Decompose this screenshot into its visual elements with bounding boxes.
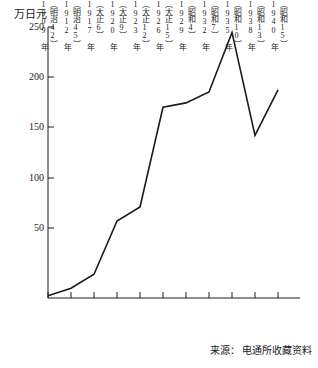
x-tick-label-5: 1926 年（大正15） <box>154 0 172 50</box>
x-tick-label-era-4: （大正12） <box>140 0 149 50</box>
x-tick-label-era-10: （昭和15） <box>278 0 287 50</box>
x-tick-label-year-6: 1929 年 <box>177 0 186 50</box>
x-tick-label-8: 1935 年（昭和10） <box>223 0 241 50</box>
x-tick-label-era-8: （昭和10） <box>232 0 241 50</box>
y-tick-label-100: 100 <box>29 172 44 183</box>
x-tick-label-era-0: （明治42） <box>48 0 57 50</box>
x-tick-label-0: 1909 年（明治42） <box>39 0 57 50</box>
x-tick-label-6: 1929 年（昭和4） <box>177 0 195 50</box>
x-tick-label-year-4: 1923 年 <box>131 0 140 50</box>
x-tick-label-era-3: （大正9） <box>117 0 126 50</box>
x-tick-label-year-2: 1917 年 <box>85 0 94 50</box>
y-tick-label-200: 200 <box>29 71 44 82</box>
y-tick-label-150: 150 <box>29 121 44 132</box>
chart-plot-area: 250 200 150 100 50 <box>0 0 318 368</box>
x-tick-label-year-1: 1912 年 <box>62 0 71 50</box>
x-tick-label-7: 1932 年（昭和7） <box>200 0 218 50</box>
source-note: 来源： 电通所收藏资料 <box>210 345 313 357</box>
x-tick-label-year-0: 1909 年 <box>39 0 48 50</box>
x-tick-label-2: 1917 年（大正6） <box>85 0 103 50</box>
x-tick-label-year-3: 1920 年 <box>108 0 117 50</box>
x-tick-label-year-10: 1940 年 <box>269 0 278 50</box>
x-tick-label-era-7: （昭和7） <box>209 0 218 50</box>
x-tick-label-era-1: （明治45） <box>71 0 80 50</box>
data-series-line <box>48 32 278 295</box>
x-tick-label-10: 1940 年（昭和15） <box>269 0 287 50</box>
chart-container: 万日元 250 200 150 100 50 <box>0 0 318 368</box>
x-tick-label-year-9: 1938 年 <box>246 0 255 50</box>
x-tick-label-year-8: 1935 年 <box>223 0 232 50</box>
x-tick-label-era-6: （昭和4） <box>186 0 195 50</box>
x-tick-label-1: 1912 年（明治45） <box>62 0 80 50</box>
x-tick-label-4: 1923 年（大正12） <box>131 0 149 50</box>
y-axis-ticks <box>48 27 54 228</box>
y-tick-label-50: 50 <box>34 222 44 233</box>
x-tick-label-year-5: 1926 年 <box>154 0 163 50</box>
x-tick-label-era-9: （昭和13） <box>255 0 264 50</box>
x-tick-label-3: 1920 年（大正9） <box>108 0 126 50</box>
x-tick-label-era-5: （大正15） <box>163 0 172 50</box>
x-tick-label-year-7: 1932 年 <box>200 0 209 50</box>
x-tick-label-era-2: （大正6） <box>94 0 103 50</box>
x-axis-ticks <box>48 292 278 298</box>
x-tick-label-9: 1938 年（昭和13） <box>246 0 264 50</box>
